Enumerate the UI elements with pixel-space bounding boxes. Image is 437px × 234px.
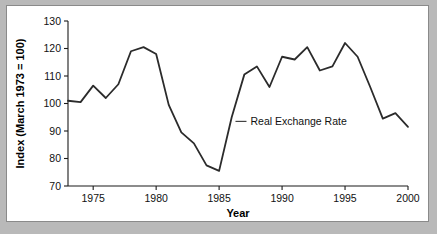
y-tick-label: 130 (43, 15, 61, 27)
x-tick-label: 1985 (207, 192, 231, 204)
y-tick-label: 100 (43, 97, 61, 109)
series-line-real-exchange-rate (68, 43, 408, 171)
x-tick-label: 2000 (396, 192, 420, 204)
annotation-real-exchange-rate: Real Exchange Rate (250, 115, 346, 127)
y-axis-title: Index (March 1973 = 100) (14, 38, 26, 168)
y-tick-label: 80 (49, 152, 61, 164)
y-tick-label: 120 (43, 42, 61, 54)
x-tick-label: 1975 (82, 192, 106, 204)
y-tick-label: 90 (49, 125, 61, 137)
x-tick-label: 1980 (144, 192, 168, 204)
chart-figure: 7080901001101201301975198019851990199520… (6, 5, 429, 222)
y-tick-label: 70 (49, 180, 61, 192)
y-tick-label: 110 (44, 70, 61, 82)
x-tick-label: 1995 (333, 192, 357, 204)
x-tick-label: 1990 (270, 192, 294, 204)
real-exchange-rate-line-chart: 7080901001101201301975198019851990199520… (7, 6, 430, 223)
x-axis-title: Year (226, 207, 250, 219)
